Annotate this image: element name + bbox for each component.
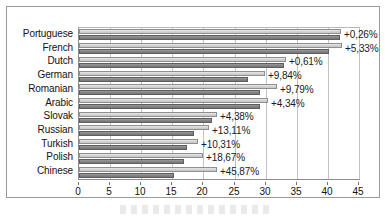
- value-axis-labels: 051015202530354045: [78, 182, 361, 200]
- bar-dark-chinese: [79, 173, 174, 178]
- category-label-chinese: Chinese: [37, 166, 73, 176]
- value-label-slovak: +4,38%: [220, 112, 254, 122]
- x-tick-mark: [358, 182, 359, 185]
- category-label-arabic: Arabic: [45, 98, 73, 108]
- value-label-romanian: +9,79%: [280, 85, 314, 95]
- bar-light-slovak: [79, 112, 217, 117]
- category-label-german: German: [37, 70, 73, 80]
- bar-light-arabic: [79, 98, 268, 103]
- bar-dark-dutch: [79, 63, 284, 68]
- x-tick-mark: [234, 182, 235, 185]
- x-tick-label-10: 10: [134, 186, 145, 197]
- bar-group-german: [79, 69, 359, 83]
- chart-figure: +0,26%+5,33%+0,61%+9,84%+9,79%+4,34%+4,3…: [0, 0, 386, 222]
- value-label-german: +9,84%: [268, 71, 302, 81]
- value-label-chinese: +45,87%: [220, 167, 259, 177]
- bar-dark-slovak: [79, 118, 212, 123]
- value-label-arabic: +4,34%: [271, 99, 305, 109]
- bar-light-portuguese: [79, 29, 341, 34]
- bar-group-french: [79, 42, 359, 56]
- bar-dark-polish: [79, 159, 184, 164]
- bar-light-dutch: [79, 57, 286, 62]
- x-tick-label-35: 35: [290, 186, 301, 197]
- bar-light-russian: [79, 125, 209, 130]
- value-label-turkish: +10,31%: [201, 140, 240, 150]
- x-tick-label-20: 20: [196, 186, 207, 197]
- x-tick-label-25: 25: [228, 186, 239, 197]
- bar-light-romanian: [79, 84, 277, 89]
- x-tick-label-40: 40: [321, 186, 332, 197]
- bar-dark-arabic: [79, 104, 260, 109]
- category-axis-labels: PortugueseFrenchDutchGermanRomanianArabi…: [13, 27, 76, 180]
- value-label-dutch: +0,61%: [289, 57, 323, 67]
- bar-dark-turkish: [79, 145, 187, 150]
- x-tick-label-15: 15: [165, 186, 176, 197]
- x-tick-label-30: 30: [259, 186, 270, 197]
- value-label-french: +5,33%: [345, 44, 379, 54]
- category-label-turkish: Turkish: [41, 139, 73, 149]
- x-tick-label-5: 5: [106, 186, 112, 197]
- bar-light-turkish: [79, 139, 198, 144]
- bar-rows: +0,26%+5,33%+0,61%+9,84%+9,79%+4,34%+4,3…: [79, 28, 359, 179]
- value-label-portuguese: +0,26%: [344, 30, 378, 40]
- x-tick-mark: [171, 182, 172, 185]
- x-tick-mark: [327, 182, 328, 185]
- category-label-french: French: [42, 43, 73, 53]
- bar-dark-russian: [79, 131, 194, 136]
- bar-dark-portuguese: [79, 35, 340, 40]
- bar-light-polish: [79, 153, 203, 158]
- bar-dark-french: [79, 49, 329, 54]
- bar-group-chinese: [79, 165, 359, 179]
- x-tick-mark: [265, 182, 266, 185]
- category-label-russian: Russian: [38, 125, 73, 135]
- x-tick-mark: [202, 182, 203, 185]
- bar-light-chinese: [79, 167, 217, 172]
- bar-dark-german: [79, 77, 248, 82]
- value-label-polish: +18,67%: [206, 153, 245, 163]
- chart-frame: +0,26%+5,33%+0,61%+9,84%+9,79%+4,34%+4,3…: [6, 6, 380, 198]
- caption-smudge: [120, 205, 270, 214]
- x-tick-mark: [109, 182, 110, 185]
- bar-group-arabic: [79, 97, 359, 111]
- bar-light-german: [79, 71, 265, 76]
- x-tick-label-0: 0: [75, 186, 81, 197]
- category-label-dutch: Dutch: [47, 56, 73, 66]
- category-label-slovak: Slovak: [44, 111, 73, 121]
- bar-dark-romanian: [79, 90, 260, 95]
- category-label-portuguese: Portuguese: [23, 29, 73, 39]
- x-tick-mark: [78, 182, 79, 185]
- plot-area: +0,26%+5,33%+0,61%+9,84%+9,79%+4,34%+4,3…: [78, 27, 360, 180]
- value-label-russian: +13,11%: [212, 126, 250, 136]
- x-tick-label-45: 45: [352, 186, 363, 197]
- x-tick-mark: [296, 182, 297, 185]
- bar-group-portuguese: [79, 28, 359, 42]
- category-label-romanian: Romanian: [28, 84, 73, 94]
- x-tick-mark: [140, 182, 141, 185]
- bar-group-romanian: [79, 83, 359, 97]
- category-label-polish: Polish: [46, 152, 73, 162]
- bar-light-french: [79, 43, 342, 48]
- bar-group-slovak: [79, 110, 359, 124]
